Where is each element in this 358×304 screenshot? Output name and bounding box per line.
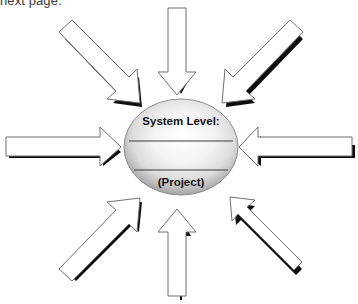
arrow-north-body	[158, 8, 196, 95]
converging-arrows-diagram: System Level: (Project)	[0, 0, 358, 304]
hub-sphere: System Level: (Project)	[124, 99, 238, 195]
arrow-northeast	[222, 20, 303, 107]
arrow-south	[158, 209, 196, 300]
arrow-northeast-body	[222, 20, 303, 103]
arrow-north	[158, 8, 196, 95]
arrow-west	[6, 127, 121, 166]
arrow-south-body	[158, 209, 196, 296]
diagram-canvas: next page.	[0, 0, 358, 304]
arrow-southeast	[230, 197, 302, 275]
arrow-west-body	[6, 127, 121, 166]
arrow-east	[239, 127, 355, 166]
hub-subtitle: (Project)	[158, 176, 205, 188]
arrow-northwest	[59, 20, 142, 107]
arrow-northwest-body	[59, 20, 140, 103]
hub-title: System Level:	[142, 115, 219, 127]
arrow-southwest	[59, 198, 142, 281]
arrow-southwest-body	[59, 198, 140, 281]
arrow-east-body	[239, 127, 352, 166]
arrow-southeast-body	[230, 197, 302, 270]
